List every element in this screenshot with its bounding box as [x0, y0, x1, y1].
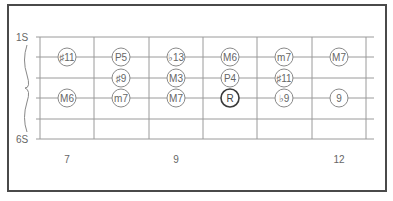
svg-text:m7: m7	[114, 93, 128, 104]
svg-text:M6: M6	[60, 93, 74, 104]
note-marker: P4	[221, 69, 239, 87]
svg-text:♭9: ♭9	[279, 93, 290, 104]
note-marker: M7	[330, 48, 348, 66]
fret-grid	[36, 37, 374, 139]
string-label-6s: 6S	[16, 134, 29, 145]
note-marker: M6	[221, 48, 239, 66]
string-range-brace	[25, 45, 29, 132]
svg-text:9: 9	[336, 93, 342, 104]
svg-text:M7: M7	[332, 52, 346, 63]
svg-text:♯11: ♯11	[276, 73, 292, 84]
note-marker: ♯11	[275, 69, 293, 87]
svg-text:M3: M3	[169, 73, 183, 84]
note-marker: m7	[275, 48, 293, 66]
note-marker: m7	[112, 89, 130, 107]
note-marker: M7	[167, 89, 185, 107]
note-marker: M3	[167, 69, 185, 87]
note-marker: 9	[330, 89, 348, 107]
fret-numbers: 7912	[64, 154, 345, 165]
svg-text:M7: M7	[169, 93, 183, 104]
note-marker: ♯9	[112, 69, 130, 87]
svg-text:♯9: ♯9	[116, 73, 127, 84]
note-marker: ♭9	[275, 89, 293, 107]
svg-text:♭13: ♭13	[168, 52, 185, 63]
svg-text:M6: M6	[223, 52, 237, 63]
svg-text:P4: P4	[224, 73, 237, 84]
note-marker: ♯11	[58, 48, 76, 66]
fret-number: 9	[173, 154, 179, 165]
svg-text:P5: P5	[115, 52, 128, 63]
fretboard-diagram: 1S 6S 7912 ♯11P5♭13M6m7M7♯9M3P4♯11M6m7M7…	[0, 0, 393, 201]
svg-text:R: R	[226, 93, 233, 104]
note-marker: M6	[58, 89, 76, 107]
svg-text:♯11: ♯11	[59, 52, 75, 63]
note-marker: ♭13	[167, 48, 185, 66]
fret-number: 12	[333, 154, 345, 165]
string-label-1s: 1S	[16, 32, 29, 43]
note-marker: P5	[112, 48, 130, 66]
svg-text:m7: m7	[277, 52, 291, 63]
root-note-marker: R	[221, 89, 239, 107]
fret-number: 7	[64, 154, 70, 165]
